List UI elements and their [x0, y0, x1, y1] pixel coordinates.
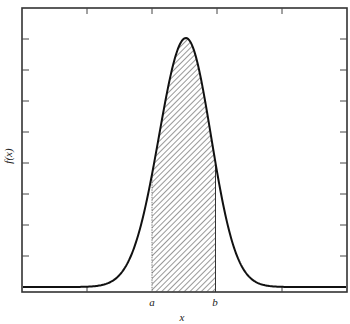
- density-chart: a b x f(x): [0, 0, 350, 324]
- x-axis-label: x: [179, 311, 185, 323]
- label-a: a: [149, 296, 155, 308]
- y-axis-label: f(x): [2, 148, 15, 164]
- shaded-area-a-to-b: [152, 38, 216, 292]
- label-b: b: [212, 296, 218, 308]
